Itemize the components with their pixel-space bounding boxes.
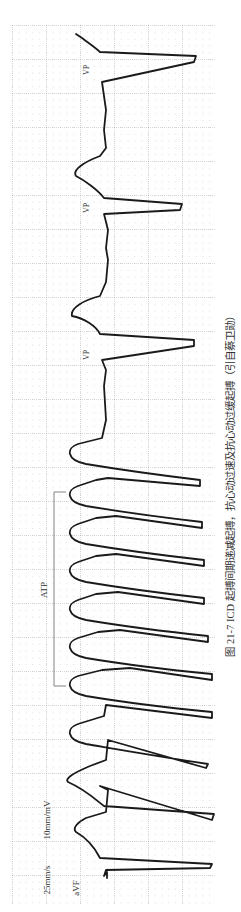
vp-label-1: VP (82, 64, 91, 75)
ecg-grid (12, 25, 216, 905)
ecg-figure: ATP VP VP VP 25mm/s 10mm/mV aVF 图 21-7 I… (0, 0, 241, 912)
vp-label-3: VP (82, 349, 91, 360)
vp-label-2: VP (82, 202, 91, 213)
atp-label: ATP (39, 582, 49, 598)
gain-label: 10mm/mV (42, 800, 52, 840)
figure-caption: 图 21-7 ICD 起搏间期递减起搏，抗心动过速及抗心动过缓起搏（引自蔡卫勋） (224, 311, 236, 656)
speed-label: 25mm/s (42, 865, 52, 895)
lead-label: aVF (71, 880, 81, 896)
